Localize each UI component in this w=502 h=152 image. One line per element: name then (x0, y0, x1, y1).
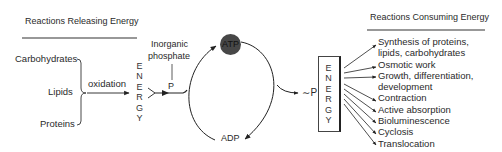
consumer-list: Synthesis of proteins, lipids, carbohydr… (378, 36, 473, 149)
consumer-item: Osmotic work (378, 59, 473, 70)
consumer-item: Synthesis of proteins, (378, 36, 473, 47)
released-energy-label: E N E R G Y (136, 61, 143, 123)
energy-split-icon (148, 88, 155, 98)
high-energy-phosphate-arrow (277, 85, 298, 93)
consumer-item: Cyclosis (378, 126, 473, 137)
source-lipids: Lipids (48, 86, 73, 97)
consumer-item: development (378, 81, 473, 92)
consumer-item: Contraction (378, 92, 473, 103)
source-carbohydrates: Carbohydrates (15, 53, 77, 64)
consumer-item: Bioluminescence (378, 115, 473, 126)
consumer-arrows (344, 45, 376, 145)
high-energy-phosphate-label: ∼P (302, 87, 317, 98)
cycle-left-arc-arrow (189, 46, 216, 140)
oxidation-label: oxidation (88, 78, 126, 89)
consumer-item: Growth, differentiation, (378, 70, 473, 81)
consumer-item: Translocation (378, 138, 473, 149)
consumer-item: lipids, carbohydrates (378, 47, 473, 58)
right-panel-header: Reactions Consuming Energy (370, 12, 489, 23)
atp-energy-cycle-diagram: Reactions Releasing Energy Carbohydrates… (0, 0, 502, 152)
consumer-item: Active absorption (378, 104, 473, 115)
inorganic-label-line1: Inorganic (151, 39, 188, 50)
cycle-right-arc-arrow (241, 42, 274, 139)
consumed-energy-label: E N E R G Y (325, 63, 332, 125)
source-proteins: Proteins (40, 118, 75, 129)
left-panel-header: Reactions Releasing Energy (25, 16, 139, 27)
sources-brace (77, 59, 86, 125)
adp-label: ADP (221, 133, 240, 144)
phosphate-symbol: P (168, 81, 174, 92)
atp-node: ATP (220, 34, 241, 55)
inorganic-label-line2: phosphate (148, 51, 190, 62)
